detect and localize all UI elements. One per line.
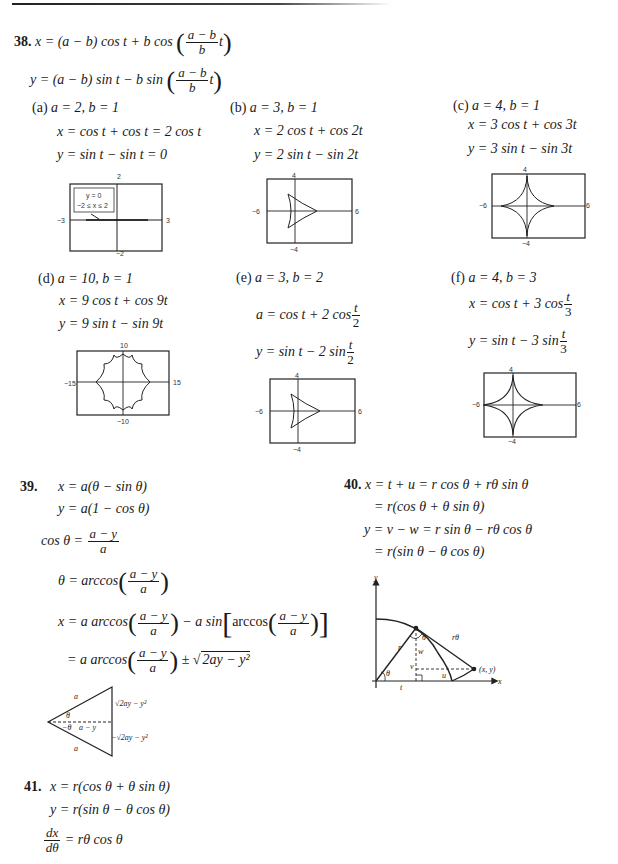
svg-text:(x, y): (x, y) [479, 665, 496, 674]
problem-39-line1: x = a(θ − sin θ) [58, 479, 147, 495]
part-a-y: y = sin t − sin t = 0 [57, 147, 167, 163]
svg-text:−10: −10 [117, 418, 129, 425]
part-d-params: (d) a = 10, b = 1 [38, 271, 133, 287]
svg-text:10: 10 [120, 342, 128, 349]
svg-text:−6: −6 [472, 401, 480, 408]
svg-text:4: 4 [509, 366, 513, 373]
svg-text:−4: −4 [522, 240, 530, 247]
problem-40-line4: = r(sin θ − θ cos θ) [374, 544, 484, 560]
svg-text:√2ay − y²: √2ay − y² [115, 699, 147, 708]
problem-39-number: 39. [20, 479, 38, 495]
svg-text:θ: θ [422, 633, 426, 642]
part-c-x: x = 3 cos t + cos 3t [468, 117, 577, 133]
svg-text:θ: θ [386, 669, 390, 678]
part-b-params: (b) a = 3, b = 1 [230, 100, 318, 116]
graph-b: 4 −4 −6 6 [262, 172, 422, 252]
problem-40-line1: 40. x = t + u = r cos θ + rθ sin θ [344, 477, 528, 493]
graph-d: 10 −10 −15 15 [60, 340, 190, 425]
part-b-x: x = 2 cos t + cos 2t [254, 123, 363, 139]
problem-40-line3: y = v − w = r sin θ − rθ cos θ [364, 522, 532, 538]
problem-41-number: 41. [24, 779, 42, 795]
svg-text:−6: −6 [252, 208, 260, 215]
svg-text:t: t [400, 683, 403, 692]
part-d-y: y = 9 sin t − sin 9t [59, 316, 163, 332]
svg-text:6: 6 [355, 208, 359, 215]
svg-text:u: u [442, 671, 446, 680]
problem-40-line2: = r(cos θ + θ sin θ) [374, 499, 484, 515]
problem-39-line3: cos θ = a − ya [41, 527, 120, 556]
svg-text:−6: −6 [479, 202, 487, 209]
svg-text:2: 2 [117, 173, 121, 180]
problem-number: 38. [14, 34, 32, 49]
part-e-x: a = cos t + 2 cost2 [256, 301, 361, 330]
svg-text:15: 15 [173, 379, 181, 386]
problem-41-line2: y = r(sin θ − θ cos θ) [50, 802, 170, 818]
problem-41-line1: x = r(cos θ + θ sin θ) [50, 779, 170, 795]
part-c-y: y = 3 sin t − sin 3t [468, 141, 572, 157]
svg-text:4: 4 [295, 372, 299, 379]
svg-text:−√2ay − y²: −√2ay − y² [111, 733, 148, 742]
graph-a: 2 −2 −3 3 y = 0 −2 ≤ x ≤ 2 [55, 172, 185, 257]
problem-38-eq-x: 38. x = (a − b) cos t + b cos (a − bbt) [14, 28, 232, 57]
problem-39-line2: y = a(1 − cos θ) [58, 501, 149, 517]
svg-text:−15: −15 [64, 380, 76, 387]
part-e-y: y = sin t − 2 sint2 [256, 338, 355, 367]
problem-39-line6: = a arccos(a − ya) ± √2ay − y² [67, 646, 250, 675]
header-rule [12, 3, 392, 5]
part-a-x: x = cos t + cos t = 2 cos t [57, 124, 201, 140]
triangle-diagram: a a θ −θ a − y √2ay − y² −√2ay − y² [44, 684, 174, 760]
svg-text:x: x [497, 677, 502, 686]
svg-text:rθ: rθ [452, 633, 459, 642]
part-e-params: (e) a = 3, b = 2 [236, 270, 323, 286]
svg-text:6: 6 [358, 408, 362, 415]
svg-text:−2 ≤ x ≤ 2: −2 ≤ x ≤ 2 [77, 202, 108, 209]
part-b-y: y = 2 sin t − sin 2t [254, 147, 358, 163]
part-f-params: (f) a = 4, b = 3 [451, 270, 536, 286]
problem-39-line4: θ = arccos(a − ya) [58, 567, 169, 596]
involute-diagram: y x r θ θ rθ w v u t (x, y) [360, 574, 540, 694]
svg-text:−4: −4 [508, 438, 516, 445]
svg-text:w: w [418, 647, 424, 656]
svg-text:−4: −4 [290, 246, 298, 253]
graph-e: 4 −4 −6 6 [265, 372, 425, 452]
svg-text:6: 6 [586, 202, 590, 209]
part-f-x: x = cos t + 3 cost3 [469, 290, 573, 319]
part-c-params: (c) a = 4, b = 1 [453, 98, 540, 114]
svg-text:6: 6 [577, 401, 581, 408]
svg-text:−4: −4 [293, 446, 301, 453]
svg-text:a: a [74, 692, 78, 701]
problem-41-line3: dxdθ = rθ cos θ [43, 826, 123, 855]
part-f-y: y = sin t − 3 sint3 [469, 327, 568, 356]
svg-text:4: 4 [523, 166, 527, 173]
svg-text:y: y [373, 573, 378, 582]
svg-text:4: 4 [292, 172, 296, 179]
svg-text:y = 0: y = 0 [86, 192, 101, 200]
svg-text:−3: −3 [57, 217, 65, 224]
svg-text:a: a [74, 744, 78, 753]
graph-c: 4 −4 −6 6 [488, 166, 618, 248]
svg-text:−θ: −θ [62, 723, 71, 732]
problem-38-eq-y: y = (a − b) sin t − b sin (a − bbt) [30, 66, 222, 95]
problem-39-line5: x = a arccos(a − ya) − a sin[arccos(a − … [58, 608, 329, 638]
svg-text:θ: θ [66, 711, 70, 720]
svg-text:−6: −6 [255, 408, 263, 415]
svg-text:a − y: a − y [79, 723, 96, 732]
part-a-params: (a) a = 2, b = 1 [32, 100, 119, 116]
svg-text:3: 3 [166, 217, 170, 224]
graph-f: 4 −4 −6 6 [480, 366, 610, 446]
svg-text:v: v [410, 662, 414, 671]
part-d-x: x = 9 cos t + cos 9t [59, 293, 168, 309]
